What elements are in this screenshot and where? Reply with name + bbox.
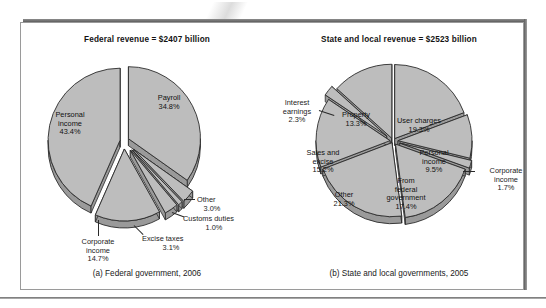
pie-label-interest-line3: 2.3% bbox=[274, 116, 320, 125]
page-bottom-rule bbox=[0, 297, 546, 299]
pie-label-user-charges: User charges 19.3% bbox=[386, 117, 452, 134]
panel-state-local: State and local revenue = $2523 billion … bbox=[273, 23, 525, 291]
pie-label-other: Other 3.0% bbox=[197, 196, 253, 213]
leader-line-state-corporate bbox=[463, 171, 475, 172]
pie-label-interest-earnings: Interest earnings 2.3% bbox=[274, 99, 320, 125]
figure-frame: Federal revenue = $2407 billion Personal… bbox=[20, 22, 524, 290]
pie-label-excise-line2: 3.1% bbox=[142, 244, 200, 253]
pie-stage-state-local: Property 13.3% User charges 19.3% Person… bbox=[273, 49, 525, 267]
panel-federal: Federal revenue = $2407 billion Personal… bbox=[21, 23, 273, 291]
pie-label-payroll: Payroll 34.8% bbox=[142, 94, 196, 111]
pie-label-property: Property 13.3% bbox=[330, 111, 382, 128]
chart-title-state-local: State and local revenue = $2523 billion bbox=[273, 35, 525, 44]
leader-line-corporate bbox=[98, 220, 99, 236]
scan-artifact bbox=[150, 2, 300, 20]
pie-label-state-corporate-line3: 1.7% bbox=[476, 184, 536, 193]
chart-caption-federal: (a) Federal government, 2006 bbox=[21, 269, 273, 278]
pie-label-customs-line1: Customs duties bbox=[183, 215, 261, 224]
pie-stage-federal: Personal income 43.4% Payroll 34.8% Othe… bbox=[21, 49, 273, 267]
pie-label-personal-income: Personal income 43.4% bbox=[39, 111, 101, 137]
pie-label-excise-taxes: Excise taxes 3.1% bbox=[142, 235, 212, 252]
pie-label-state-other: Other 21.3% bbox=[320, 191, 368, 208]
chart-caption-state-local: (b) State and local governments, 2005 bbox=[273, 269, 525, 278]
pie-label-from-federal-line4: 17.4% bbox=[375, 203, 437, 212]
pie-label-sales-line3: 15.2% bbox=[295, 166, 351, 175]
leader-line-other bbox=[184, 199, 195, 200]
pie-label-customs-duties: Customs duties 1.0% bbox=[183, 215, 261, 232]
pie-label-customs-line2: 1.0% bbox=[183, 224, 245, 233]
pie-label-state-personal-income: Personal income 9.5% bbox=[407, 149, 461, 175]
pie-label-other-line2: 3.0% bbox=[197, 205, 227, 214]
pie-label-personal-income-line3: 43.4% bbox=[39, 128, 101, 137]
pie-label-corporate-line3: 14.7% bbox=[63, 255, 133, 264]
chart-title-federal: Federal revenue = $2407 billion bbox=[21, 35, 273, 44]
pie-label-state-other-line2: 21.3% bbox=[320, 200, 368, 209]
pie-label-user-charges-line2: 19.3% bbox=[386, 126, 452, 135]
pie-label-from-federal-government: From federal government 17.4% bbox=[375, 177, 437, 211]
pie-label-payroll-line2: 34.8% bbox=[142, 103, 196, 112]
pie-label-property-line2: 13.3% bbox=[330, 120, 382, 129]
pie-label-corporate-income: Corporate income 14.7% bbox=[63, 238, 133, 264]
pie-label-state-personal-line3: 9.5% bbox=[407, 166, 461, 175]
pie-label-state-corporate-income: Corporate income 1.7% bbox=[476, 167, 536, 193]
pie-label-sales-and-excise: Sales and excise 15.2% bbox=[295, 149, 351, 175]
